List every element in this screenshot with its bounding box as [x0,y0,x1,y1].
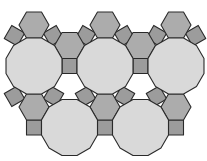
square-tile [27,120,42,135]
square-tile [62,59,77,74]
dodecagon-tile [77,38,133,94]
dodecagon-tile [6,38,62,94]
square-tile [169,120,184,135]
square-tile [133,59,148,74]
tiling-diagram [0,0,207,161]
dodecagon-tile [113,100,169,156]
square-tile [98,120,113,135]
dodecagon-tile [42,100,98,156]
dodecagon-tile [148,38,204,94]
